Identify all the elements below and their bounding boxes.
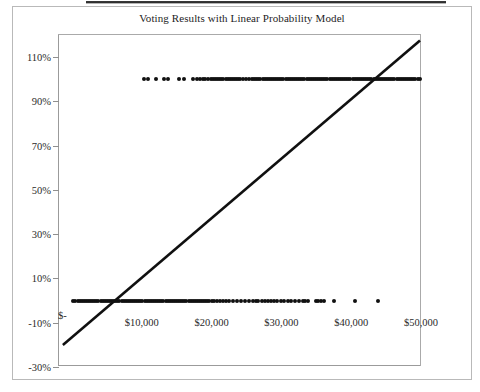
- scatter-point: [306, 299, 310, 303]
- x-axis-tick-label: $30,000: [264, 317, 298, 328]
- x-axis-tick-label: $10,000: [125, 317, 159, 328]
- y-axis-tick-label: 90%: [32, 96, 51, 107]
- y-axis-tick-label: 70%: [32, 140, 51, 151]
- x-axis-tick-label: $20,000: [195, 317, 229, 328]
- scatter-point: [146, 77, 150, 81]
- y-axis-tick: [53, 146, 59, 147]
- scatter-point: [166, 77, 170, 81]
- scatter-point: [182, 77, 186, 81]
- y-axis-tick: [53, 101, 59, 102]
- y-axis-tick-label: -30%: [28, 362, 51, 373]
- y-axis-tick-label: -10%: [28, 317, 51, 328]
- plot-area: 110%90%70%50%30%10%-10%-30% $-$10,000$20…: [58, 34, 421, 366]
- scatter-point: [231, 299, 235, 303]
- y-axis-tick: [53, 278, 59, 279]
- scatter-point: [154, 77, 158, 81]
- y-axis-tick: [53, 57, 59, 58]
- y-axis-tick: [53, 190, 59, 191]
- y-axis-tick: [53, 323, 59, 324]
- y-axis-tick: [53, 367, 59, 368]
- scan-artifact-strip: [0, 0, 480, 5]
- scatter-point: [322, 299, 326, 303]
- scatter-point: [332, 299, 336, 303]
- scatter-point: [376, 299, 380, 303]
- scatter-point: [177, 77, 181, 81]
- x-axis-tick-label: $40,000: [334, 317, 368, 328]
- x-axis-zero-label: $-: [58, 310, 67, 321]
- scatter-point: [418, 77, 422, 81]
- chart-figure-frame: Voting Results with Linear Probability M…: [12, 6, 472, 380]
- y-axis-tick-label: 30%: [32, 229, 51, 240]
- y-axis-tick-label: 50%: [32, 184, 51, 195]
- y-axis-tick-label: 110%: [27, 52, 51, 63]
- x-axis-tick-label: $50,000: [404, 317, 438, 328]
- chart-title: Voting Results with Linear Probability M…: [13, 12, 471, 24]
- y-axis-tick-label: 10%: [32, 273, 51, 284]
- scatter-point: [353, 299, 357, 303]
- y-axis-tick: [53, 234, 59, 235]
- x-axis-line: [58, 365, 420, 366]
